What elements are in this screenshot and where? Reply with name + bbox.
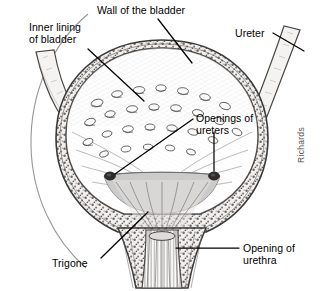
ureter-opening-left	[105, 172, 116, 180]
urethra-opening	[149, 232, 175, 241]
label-wall-of-the-bladder: Wall of the bladder	[97, 5, 185, 17]
label-trigone: Trigone	[52, 258, 88, 270]
label-inner-lining-of-bladder: Inner lining of bladder	[29, 22, 81, 45]
ureter-opening-right	[209, 172, 220, 180]
label-openings-of-ureters: Openings of ureters	[196, 113, 253, 136]
bladder-anatomy-figure: Inner lining of bladder Wall of the blad…	[0, 0, 324, 291]
artist-signature: Richards	[296, 103, 308, 163]
label-ureter: Ureter	[235, 28, 264, 40]
label-opening-of-urethra: Opening of urethra	[243, 243, 295, 266]
